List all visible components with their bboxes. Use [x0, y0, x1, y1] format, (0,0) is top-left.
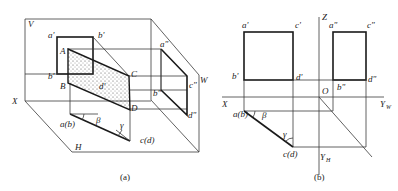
label-v: V — [28, 19, 35, 29]
label-ab: a(b) — [60, 119, 75, 129]
label-b-prime-left: b' — [48, 71, 56, 81]
label-yw: Y W — [380, 99, 392, 110]
label-d-prime-b: d' — [296, 72, 304, 82]
label-a-prime-b: a' — [242, 20, 250, 30]
label-cd: c(d) — [140, 135, 155, 145]
label-b-prime-top: b' — [98, 30, 106, 40]
label-c-dprime: c" — [189, 80, 197, 90]
label-c-dprime-b: c" — [367, 20, 375, 30]
diagonal-45 — [319, 97, 372, 157]
label-cd-b: c(d) — [283, 149, 298, 159]
label-a-dprime-b: a" — [329, 20, 338, 30]
beta-arc-b — [253, 111, 255, 117]
label-beta-a: β — [95, 115, 101, 125]
label-beta-b: β — [261, 110, 267, 120]
label-x-b: X — [221, 99, 228, 109]
label-c-prime-b: c' — [295, 20, 302, 30]
label-d-dprime-b: d" — [368, 74, 377, 84]
label-yh: Y H — [320, 152, 331, 163]
label-ab-b: a(b) — [233, 109, 248, 119]
label-w: W — [200, 75, 209, 85]
label-b-prime-b: b' — [232, 71, 240, 81]
caption-b: (b) — [314, 172, 325, 182]
label-z: Z — [322, 12, 328, 22]
label-b-dprime: b" — [153, 88, 162, 98]
caption-a: (a) — [120, 172, 130, 182]
label-gamma-a: γ — [120, 120, 124, 130]
label-a-prime: a' — [48, 30, 56, 40]
yw-intersection — [151, 100, 199, 152]
figure-b: a' c' Z a" c" b' d' d" O b" X Y W Y H a(… — [221, 12, 392, 182]
projection-diagram: V W H X A B C D a' b' b' d' a" b" c" d" … — [0, 0, 398, 191]
label-D: D — [130, 103, 138, 113]
svg-text:W: W — [386, 104, 392, 110]
gamma-arc-b — [286, 138, 293, 141]
label-a-dprime: a" — [160, 39, 169, 49]
label-b-dprime-b: b" — [337, 82, 346, 92]
figure-a: V W H X A B C D a' b' b' d' a" b" c" d" … — [11, 19, 209, 182]
w-projection-b — [333, 32, 366, 80]
label-x-a: X — [11, 96, 18, 106]
label-C: C — [131, 69, 138, 79]
v-projection-b — [244, 32, 293, 80]
label-h: H — [74, 142, 82, 152]
label-d-prime: d' — [99, 81, 107, 91]
label-d-dprime: d" — [188, 110, 197, 120]
label-B: B — [60, 81, 66, 91]
label-A: A — [59, 46, 66, 56]
w-projection — [161, 49, 187, 115]
label-gamma-b: γ — [283, 129, 287, 139]
svg-text:H: H — [325, 157, 331, 163]
label-o: O — [322, 86, 329, 96]
